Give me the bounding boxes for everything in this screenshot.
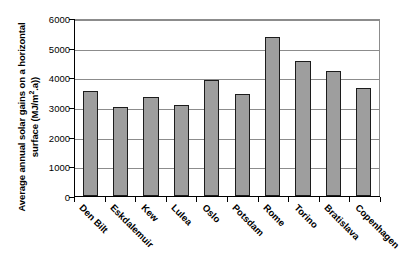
y-axis-tick-label: 1000 — [38, 162, 70, 173]
bar-slot — [197, 20, 227, 196]
bar — [295, 61, 310, 196]
bar-slot — [257, 20, 287, 196]
x-axis-category-label: Oslo — [200, 202, 223, 225]
y-axis-tick-label: 6000 — [38, 14, 70, 25]
y-axis-tick-labels: 0100020003000400050006000 — [38, 0, 70, 273]
x-axis-category-label: Lulea — [169, 202, 194, 227]
bar — [83, 91, 98, 196]
bar — [174, 105, 189, 196]
x-axis-category-label: Kew — [139, 202, 161, 224]
bar — [265, 37, 280, 196]
bar-slot — [349, 20, 379, 196]
y-axis-title-line-1: Average annual solar gains on a horizont… — [17, 22, 28, 211]
y-axis-tick-label: 4000 — [38, 73, 70, 84]
bar-slot — [166, 20, 196, 196]
bar — [356, 88, 371, 196]
y-axis-tick-label: 3000 — [38, 103, 70, 114]
y-axis-line — [74, 19, 75, 197]
bars-container — [75, 20, 379, 196]
bar — [326, 71, 341, 196]
bar — [113, 107, 128, 196]
plot-area — [74, 19, 380, 197]
x-axis-category-label: Torino — [292, 202, 320, 230]
bar-slot — [227, 20, 257, 196]
x-axis-category-labels: Den BiltEskdalemuirKewLuleaOsloPotsdamRo… — [74, 202, 380, 273]
x-axis-category-label: Den Bilt — [78, 202, 111, 235]
bar-slot — [288, 20, 318, 196]
bar — [235, 94, 250, 196]
y-axis-title-superscript: 2 — [28, 91, 35, 95]
bar — [143, 97, 158, 196]
bar-slot — [318, 20, 348, 196]
y-axis-tick-label: 0 — [38, 192, 70, 203]
bar-slot — [75, 20, 105, 196]
bar — [204, 80, 219, 196]
y-axis-tick-label: 5000 — [38, 43, 70, 54]
x-axis-category-label: Rome — [261, 202, 287, 228]
bar-slot — [105, 20, 135, 196]
x-axis-category-label: Potsdam — [231, 202, 267, 238]
x-axis-tick-mark — [380, 197, 381, 202]
x-axis-category-label: Copenhagen — [353, 202, 401, 250]
bar-slot — [136, 20, 166, 196]
y-axis-tick-label: 2000 — [38, 132, 70, 143]
